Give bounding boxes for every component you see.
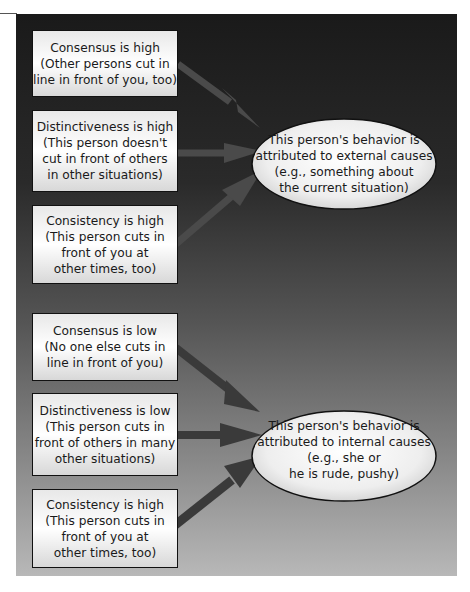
box-consensus-high: Consensus is high (Other persons cut in …: [32, 30, 178, 97]
arrow-distinctiveness-low: [172, 423, 262, 447]
arrow-consensus-low: [176, 348, 260, 412]
outcome-line: (e.g., she or: [252, 450, 436, 466]
box-distinctiveness-high: Distinctiveness is high (This person doe…: [32, 110, 178, 192]
box-text: other situations): [55, 451, 156, 467]
box-text: in other situations): [47, 167, 162, 183]
arrow-consistency-high-top: [176, 170, 262, 244]
box-text: (This person cuts in: [45, 513, 165, 529]
box-title: Distinctiveness is high: [37, 119, 174, 135]
outcome-line: he is rude, pushy): [252, 466, 436, 482]
outcome-line: This person's behavior is: [252, 418, 436, 434]
outcome-line: (e.g., something about: [252, 164, 436, 180]
box-consistency-high-bottom: Consistency is high (This person cuts in…: [32, 489, 178, 568]
box-text: line in front of you): [47, 355, 164, 371]
box-text: cut in front of others: [42, 151, 167, 167]
box-text: (This person cuts in: [45, 419, 165, 435]
box-distinctiveness-low: Distinctiveness is low (This person cuts…: [32, 393, 178, 476]
arrow-consensus-high: [178, 64, 260, 128]
box-text: front of you at: [61, 529, 148, 545]
outcome-line: This person's behavior is: [252, 132, 436, 148]
box-text: front of you at: [61, 245, 148, 261]
box-title: Consistency is high: [46, 497, 164, 513]
box-text: front of others in many: [35, 435, 175, 451]
box-text: line in front of you, too): [33, 72, 177, 88]
outcome-line: attributed to internal causes: [252, 434, 436, 450]
box-consistency-high-top: Consistency is high (This person cuts in…: [32, 205, 178, 284]
outcome-external-text: This person's behavior is attributed to …: [252, 132, 436, 196]
box-text: (This person doesn't: [43, 135, 167, 151]
box-text: (No one else cuts in: [45, 339, 166, 355]
box-text: (This person cuts in: [45, 229, 165, 245]
arrow-consistency-high-bottom: [174, 456, 262, 526]
box-title: Consensus is high: [50, 40, 160, 56]
box-title: Distinctiveness is low: [40, 403, 171, 419]
arrow-distinctiveness-high: [178, 143, 262, 163]
box-text: other times, too): [54, 545, 156, 561]
box-consensus-low: Consensus is low (No one else cuts in li…: [32, 313, 178, 381]
outcome-line: the current situation): [252, 180, 436, 196]
box-title: Consistency is high: [46, 213, 164, 229]
box-text: (Other persons cut in: [40, 56, 169, 72]
box-title: Consensus is low: [53, 323, 157, 339]
outcome-internal-text: This person's behavior is attributed to …: [252, 418, 436, 482]
box-text: other times, too): [54, 261, 156, 277]
outcome-line: attributed to external causes: [252, 148, 436, 164]
